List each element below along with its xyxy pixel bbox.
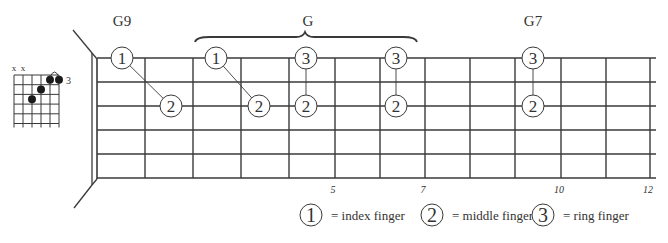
finger-marker: 2 — [385, 95, 407, 117]
finger-number: 3 — [302, 49, 311, 68]
legend-label: = ring finger — [563, 208, 629, 223]
muted-string-marker: x — [12, 63, 17, 73]
finger-marker: 2 — [522, 95, 544, 117]
fret-number-label: 12 — [643, 184, 653, 195]
fret-number-label: 7 — [421, 184, 427, 195]
finger-number: 3 — [529, 49, 538, 68]
finger-number: 2 — [167, 97, 176, 116]
finger-legend: 1= index finger2= middle finger3= ring f… — [300, 204, 629, 226]
finger-marker: 2 — [160, 95, 182, 117]
finger-marker: 3 — [522, 47, 544, 69]
guitar-chord-diagram: xx3 G9GG7 1212323232 571012 1= index fin… — [0, 0, 668, 243]
fret-number-label: 5 — [331, 184, 336, 195]
fret-number-label: 10 — [554, 184, 564, 195]
muted-string-marker: x — [21, 63, 26, 73]
finger-marker: 1 — [111, 47, 133, 69]
finger-number: 2 — [302, 97, 311, 116]
finger-number: 2 — [255, 97, 264, 116]
finger-number: 2 — [529, 97, 538, 116]
finger-marker: 2 — [248, 95, 270, 117]
finger-dot — [28, 95, 36, 103]
legend-finger-number: 1 — [306, 204, 316, 226]
chord-label: G9 — [113, 13, 131, 29]
fretboard-nut — [73, 30, 97, 208]
legend-item: 1= index finger — [300, 204, 405, 226]
legend-finger-number: 2 — [427, 204, 437, 226]
legend-finger-number: 3 — [538, 204, 548, 226]
fret-number-markers: 571012 — [331, 184, 654, 195]
legend-label: = middle finger — [452, 208, 534, 223]
chord-label: G7 — [524, 13, 543, 29]
finger-dot — [55, 76, 63, 84]
mini-chord-diagram: xx3 — [12, 63, 71, 128]
finger-marker: 2 — [295, 95, 317, 117]
legend-item: 3= ring finger — [532, 204, 629, 226]
chord-group-brace — [195, 32, 417, 42]
legend-item: 2= middle finger — [421, 204, 534, 226]
finger-number: 1 — [118, 49, 127, 68]
chord-label: G — [303, 13, 314, 29]
finger-number: 3 — [392, 49, 401, 68]
fretboard — [97, 58, 656, 178]
chord-labels: G9GG7 — [113, 13, 543, 29]
finger-number: 2 — [392, 97, 401, 116]
start-fret-label: 3 — [66, 75, 71, 86]
finger-marker: 1 — [205, 47, 227, 69]
finger-dot — [46, 76, 54, 84]
legend-label: = index finger — [331, 208, 405, 223]
finger-dot — [37, 86, 45, 94]
finger-number: 1 — [212, 49, 221, 68]
finger-marker: 3 — [295, 47, 317, 69]
finger-marker: 3 — [385, 47, 407, 69]
